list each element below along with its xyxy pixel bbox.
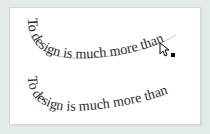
canvas-svg: To design is much more than To design is… [0, 0, 210, 134]
path-selection-cursor-icon [160, 43, 175, 57]
type-on-path-2[interactable]: To design is much more than [25, 75, 170, 114]
type-on-path-1[interactable]: To design is much more than [25, 17, 166, 61]
